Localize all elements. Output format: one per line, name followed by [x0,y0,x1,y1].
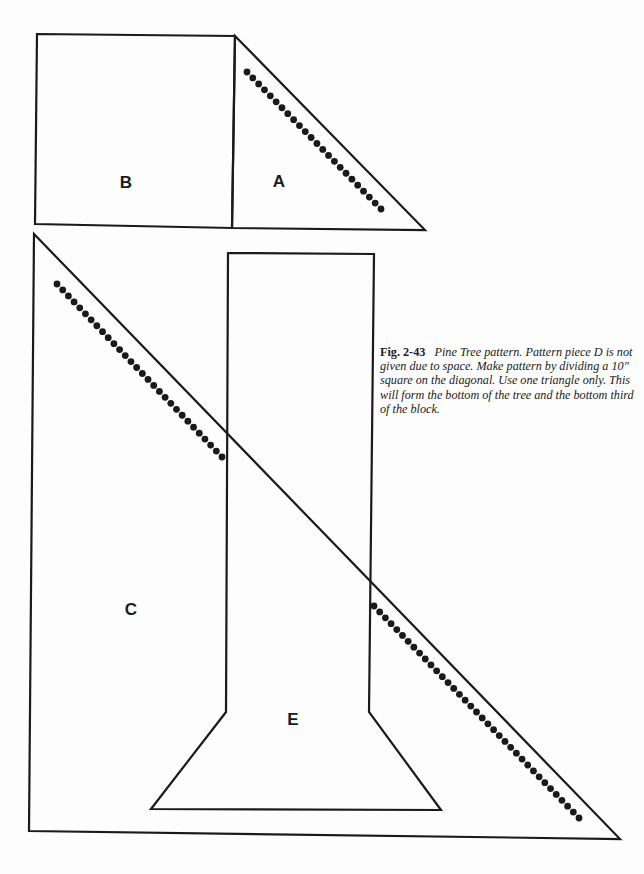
seam-dot [348,176,355,183]
seam-dot [162,394,169,401]
pattern-page: B A C E Fig. 2-43 Pine Tree pattern. Pat… [0,0,644,874]
seam-dot [173,406,180,413]
seam-dot [207,442,214,449]
seam-dot [371,603,378,610]
piece-b-label: B [120,173,132,193]
seam-dot [93,322,100,329]
seam-dot [405,638,412,645]
seam-dot [244,69,251,76]
seam-dot [393,626,400,633]
seam-dot [213,448,220,455]
seam-dot [467,703,474,710]
seam-dot [296,122,303,129]
seam-dot [541,779,548,786]
seam-dot [150,382,157,389]
seam-dot [290,116,297,123]
seam-dot [202,436,209,443]
seam-dot [156,388,163,395]
seam-dot [133,364,140,371]
seam-dot [255,81,262,88]
seam-dot [372,200,379,207]
seam-dot [570,809,577,816]
seam-dot [302,128,309,135]
seam-dot [376,608,383,615]
seam-dot [314,140,321,147]
seam-dot [473,709,480,716]
seam-dot [576,815,583,822]
seam-dot [496,732,503,739]
pattern-diagram [0,0,644,874]
piece-c-outline [29,234,620,839]
seam-dot [196,430,203,437]
seam-dot [308,134,315,141]
seam-dot [507,744,514,751]
seam-dot [484,720,491,727]
seam-dot [82,310,89,317]
seam-dot [524,762,531,769]
seam-dot [54,281,61,288]
piece-c-label: C [125,600,137,620]
seam-dot [445,679,452,686]
seam-dot [184,418,191,425]
seam-dot [456,691,463,698]
seam-dot [462,697,469,704]
seam-dot [105,334,112,341]
seam-dot [279,104,286,111]
seam-dot [382,614,389,621]
seam-dot [267,92,274,99]
seam-dot [439,673,446,680]
seam-dot [479,714,486,721]
seam-dot [433,667,440,674]
seam-dot [378,206,385,213]
seam-dot [179,412,186,419]
seam-dot [249,75,256,82]
piece-a-outline [232,36,425,230]
figure-number: Fig. 2-43 [380,345,425,359]
seam-dot [490,726,497,733]
seam-dot [530,767,537,774]
seam-dot [139,370,146,377]
seam-dot [360,188,367,195]
seam-dot [519,756,526,763]
seam-dot [110,340,117,347]
seam-dot [513,750,520,757]
seam-dot [167,400,174,407]
seam-dot [547,785,554,792]
seam-dot [116,346,123,353]
piece-a-label: A [273,172,285,192]
seam-dot [219,454,226,461]
piece-b-outline [35,34,235,228]
seam-dot [325,152,332,159]
seam-dot [190,424,197,431]
seam-dot [343,170,350,177]
piece-e-label: E [287,710,298,730]
seam-dot [366,194,373,201]
seam-dot [71,298,78,305]
seam-dot [128,358,135,365]
seam-dot [337,164,344,171]
seam-dot [388,620,395,627]
seam-dot [422,656,429,663]
seam-dot [559,797,566,804]
seam-dot [76,304,83,311]
seam-dot [564,803,571,810]
seam-dot [450,685,457,692]
seam-dot [122,352,129,359]
seam-dot [145,376,152,383]
seam-dot [410,644,417,651]
seam-dot [65,293,72,300]
seam-dot [399,632,406,639]
seam-dot [553,791,560,798]
seam-dot [428,661,435,668]
seam-dot [88,316,95,323]
seam-dot [416,650,423,657]
figure-caption: Fig. 2-43 Pine Tree pattern. Pattern pie… [380,345,642,416]
seam-dot [261,86,268,93]
seam-dot [59,287,66,294]
seam-dot [319,146,326,153]
seam-dot [273,98,280,105]
seam-dot [99,328,106,335]
seam-dot [284,110,291,117]
seam-dot [536,773,543,780]
seam-dot [354,182,361,189]
